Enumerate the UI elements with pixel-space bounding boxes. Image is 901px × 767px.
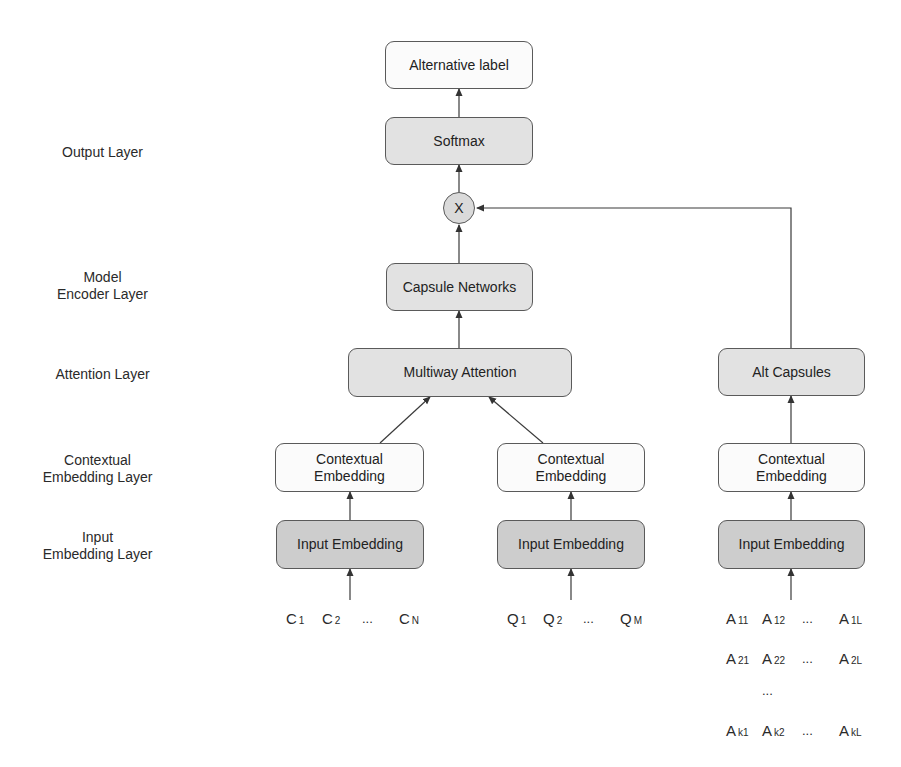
token-base: Q: [620, 610, 632, 627]
alternative-row-1-token: A12: [762, 610, 785, 627]
token-base: A: [762, 722, 772, 739]
node-alt-input-embedding: Input Embedding: [718, 520, 865, 569]
token-base: A: [839, 722, 849, 739]
context-token: CN: [399, 610, 419, 627]
layer-label-contextual-line1: Contextual: [25, 452, 170, 469]
token-base: ...: [583, 611, 594, 626]
layer-label-model-encoder-line2: Encoder Layer: [40, 286, 165, 303]
token-subscript: 21: [738, 655, 749, 666]
layer-label-input-line1: Input: [25, 529, 170, 546]
token-base: Q: [543, 610, 555, 627]
input-embedding-text: Input Embedding: [297, 536, 403, 553]
alternative-row-2-token: A22: [762, 650, 785, 667]
node-context-input-embedding: Input Embedding: [276, 520, 424, 569]
token-subscript: kL: [851, 727, 862, 738]
node-alternative-label-text: Alternative label: [409, 57, 509, 74]
token-base: ...: [802, 611, 813, 626]
token-subscript: k2: [774, 727, 785, 738]
alternative-row-4-token: ...: [802, 723, 813, 738]
token-base: C: [399, 610, 410, 627]
question-token: ...: [583, 611, 594, 626]
context-token: ...: [362, 611, 373, 626]
token-base: ...: [802, 651, 813, 666]
node-alt-contextual-embedding: Contextual Embedding: [718, 443, 865, 492]
token-base: C: [286, 610, 297, 627]
layer-label-input-line2: Embedding Layer: [25, 546, 170, 563]
token-base: A: [762, 610, 772, 627]
layer-label-attention: Attention Layer: [35, 366, 170, 383]
input-embedding-text: Input Embedding: [518, 536, 624, 553]
node-multiply: X: [443, 192, 475, 224]
token-base: A: [726, 650, 736, 667]
alternative-row-2-token: ...: [802, 651, 813, 666]
model-architecture-diagram: Output Layer Model Encoder Layer Attenti…: [0, 0, 901, 767]
question-token: Q2: [543, 610, 562, 627]
token-subscript: N: [412, 615, 419, 626]
node-question-contextual-embedding: Contextual Embedding: [497, 443, 645, 492]
token-subscript: 2L: [851, 655, 862, 666]
layer-label-output-text: Output Layer: [62, 144, 143, 160]
token-base: ...: [762, 683, 773, 698]
token-subscript: 22: [774, 655, 785, 666]
token-base: Q: [507, 610, 519, 627]
question-token: QM: [620, 610, 642, 627]
token-subscript: 12: [774, 615, 785, 626]
token-base: ...: [802, 723, 813, 738]
node-multiway-attention: Multiway Attention: [348, 348, 572, 397]
contextual-embedding-line1: Contextual: [758, 451, 825, 468]
input-embedding-text: Input Embedding: [739, 536, 845, 553]
node-multiway-attention-text: Multiway Attention: [404, 364, 517, 381]
alternative-row-3-token: ...: [762, 683, 773, 698]
context-token: C1: [286, 610, 304, 627]
token-subscript: 1L: [851, 615, 862, 626]
token-base: A: [726, 722, 736, 739]
contextual-embedding-line2: Embedding: [314, 468, 385, 485]
alternative-row-1-token: A1L: [839, 610, 862, 627]
token-subscript: k1: [738, 727, 749, 738]
node-alt-capsules: Alt Capsules: [718, 348, 865, 396]
node-alt-capsules-text: Alt Capsules: [752, 364, 831, 381]
node-context-contextual-embedding: Contextual Embedding: [275, 443, 424, 492]
alternative-row-2-token: A2L: [839, 650, 862, 667]
edge-context-contextual-to-attention: [380, 397, 430, 443]
layer-label-attention-text: Attention Layer: [55, 366, 149, 382]
layer-label-input: Input Embedding Layer: [25, 529, 170, 563]
alternative-row-1-token: ...: [802, 611, 813, 626]
context-token: C2: [322, 610, 340, 627]
contextual-embedding-line1: Contextual: [538, 451, 605, 468]
node-softmax: Softmax: [385, 117, 533, 165]
token-base: A: [839, 610, 849, 627]
layer-label-model-encoder: Model Encoder Layer: [40, 269, 165, 303]
alternative-row-1-token: A11: [726, 610, 748, 627]
node-capsule-networks: Capsule Networks: [386, 263, 533, 311]
alternative-row-4-token: Ak1: [726, 722, 749, 739]
token-subscript: 1: [299, 615, 305, 626]
node-capsule-networks-text: Capsule Networks: [403, 279, 517, 296]
token-base: A: [762, 650, 772, 667]
token-base: A: [726, 610, 736, 627]
multiply-icon: X: [454, 200, 463, 216]
contextual-embedding-line2: Embedding: [756, 468, 827, 485]
contextual-embedding-line1: Contextual: [316, 451, 383, 468]
alternative-row-2-token: A21: [726, 650, 749, 667]
token-subscript: M: [634, 615, 642, 626]
layer-label-contextual: Contextual Embedding Layer: [25, 452, 170, 486]
token-subscript: 2: [335, 615, 341, 626]
node-question-input-embedding: Input Embedding: [497, 520, 645, 569]
layer-label-model-encoder-line1: Model: [40, 269, 165, 286]
token-subscript: 11: [738, 615, 748, 626]
edge-question-contextual-to-attention: [489, 397, 543, 443]
alternative-row-4-token: AkL: [839, 722, 862, 739]
contextual-embedding-line2: Embedding: [536, 468, 607, 485]
layer-label-output: Output Layer: [40, 144, 165, 161]
token-subscript: 2: [557, 615, 563, 626]
node-softmax-text: Softmax: [433, 133, 484, 150]
token-subscript: 1: [521, 615, 527, 626]
token-base: ...: [362, 611, 373, 626]
token-base: A: [839, 650, 849, 667]
alternative-row-4-token: Ak2: [762, 722, 785, 739]
token-base: C: [322, 610, 333, 627]
layer-label-contextual-line2: Embedding Layer: [25, 469, 170, 486]
question-token: Q1: [507, 610, 526, 627]
node-alternative-label: Alternative label: [385, 41, 533, 89]
